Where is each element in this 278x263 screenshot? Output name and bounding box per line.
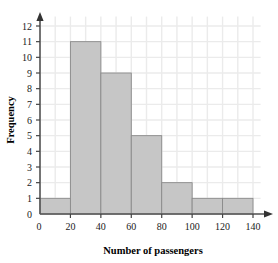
histogram-figure: 0123456789101112 020406080100120140 Numb… <box>0 0 278 263</box>
y-axis-tick-label: 3 <box>27 162 32 173</box>
x-axis-tick-label: 120 <box>215 221 230 232</box>
y-axis-title: Frequency <box>5 95 16 143</box>
x-axis-tick-label: 20 <box>65 221 75 232</box>
histogram-bar <box>70 42 100 214</box>
x-axis-tick-label: 140 <box>246 221 261 232</box>
histogram-bar <box>40 198 70 214</box>
x-axis-arrow-icon <box>264 210 273 217</box>
y-axis-tick-label: 2 <box>27 177 32 188</box>
x-axis-tick-labels: 020406080100120140 <box>37 221 261 232</box>
y-axis-tick-label: 11 <box>22 36 32 47</box>
x-axis-tick-label: 0 <box>37 221 42 232</box>
y-axis-tick-labels: 0123456789101112 <box>22 21 32 220</box>
histogram-bar <box>101 73 131 214</box>
y-axis-tick-label: 0 <box>27 209 32 220</box>
y-axis-tick-label: 5 <box>27 130 32 141</box>
y-axis-arrow-icon <box>36 12 43 21</box>
y-axis-tick-label: 12 <box>22 21 32 32</box>
y-axis-tick-label: 10 <box>22 52 32 63</box>
y-axis-tick-label: 7 <box>27 99 32 110</box>
x-axis-tick-label: 60 <box>126 221 136 232</box>
histogram-bar <box>162 183 192 214</box>
y-axis-tick-label: 4 <box>27 146 32 157</box>
x-axis-tick-label: 80 <box>157 221 167 232</box>
histogram-bar <box>131 136 161 214</box>
histogram-bar <box>192 198 222 214</box>
histogram-canvas: 0123456789101112 020406080100120140 Numb… <box>0 0 278 263</box>
x-axis-title: Number of passengers <box>103 245 203 256</box>
histogram-bar <box>223 198 253 214</box>
y-axis-tick-label: 6 <box>27 115 32 126</box>
x-axis-tick-label: 40 <box>96 221 106 232</box>
y-axis-tick-label: 1 <box>27 193 32 204</box>
y-axis-tick-label: 8 <box>27 83 32 94</box>
y-axis-tick-label: 9 <box>27 68 32 79</box>
x-axis-tick-label: 100 <box>185 221 200 232</box>
